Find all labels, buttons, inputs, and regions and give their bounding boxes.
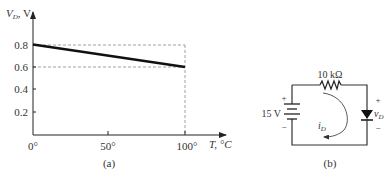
current-arrow-icon (323, 93, 347, 137)
diode-circuit: 10 kΩ + − 15 V + − vD iD (b) (261, 69, 383, 170)
source-minus: − (281, 122, 286, 132)
resistor-label: 10 kΩ (318, 69, 343, 80)
y-tick-label: 0.4 (14, 83, 28, 95)
vd-curve (33, 45, 185, 68)
battery-icon (284, 104, 300, 121)
y-axis-label: VD, V (6, 7, 31, 21)
x-tick-label: 0° (28, 140, 38, 152)
caption-b: (b) (324, 157, 337, 170)
x-axis-label: T, °C (209, 138, 232, 150)
resistor-icon (320, 81, 341, 89)
diode-voltage-label: vD (374, 108, 384, 121)
y-tick-label: 0.8 (14, 39, 28, 51)
source-label: 15 V (261, 108, 281, 119)
source-plus: + (281, 93, 286, 103)
y-tick-label: 0.6 (14, 61, 28, 73)
diode-minus: − (375, 123, 380, 133)
current-label: iD (318, 120, 326, 133)
diode-plus: + (375, 95, 380, 105)
x-tick-label: 100° (177, 140, 198, 152)
temperature-voltage-graph: VD, V 0.8 0.6 0.4 0.2 0° 50° 100° T, °C … (6, 7, 232, 170)
caption-a: (a) (103, 157, 116, 170)
x-tick-label: 50° (100, 140, 115, 152)
y-tick-label: 0.2 (14, 106, 28, 118)
diode-icon (361, 110, 373, 123)
